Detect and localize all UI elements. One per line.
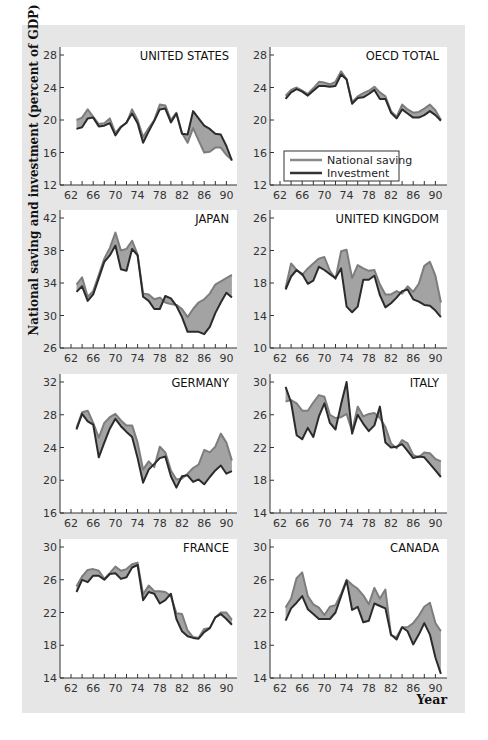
x-tick-label: 74 [340, 517, 354, 530]
x-tick-label: 82 [384, 189, 398, 202]
x-tick-label: 90 [428, 517, 442, 530]
x-tick-label: 70 [108, 682, 122, 695]
panel-title: GERMANY [171, 376, 230, 390]
panel-title: UNITED KINGDOM [336, 212, 440, 226]
panel-title: FRANCE [183, 541, 229, 555]
x-tick-label: 82 [175, 189, 189, 202]
y-tick-label: 30 [43, 541, 57, 554]
plot-area [60, 539, 237, 678]
y-tick-label: 22 [43, 607, 57, 620]
y-tick-label: 28 [43, 49, 57, 62]
y-tick-label: 18 [253, 277, 267, 290]
y-tick-label: 34 [43, 277, 57, 290]
x-tick-label: 90 [219, 682, 233, 695]
panel-oecd-total: 12162024286266707478828690OECD TOTALNati… [253, 47, 447, 202]
y-tick-label: 24 [253, 82, 267, 95]
y-tick-label: 18 [43, 639, 57, 652]
x-tick-label: 74 [131, 517, 145, 530]
x-tick-label: 74 [340, 189, 354, 202]
x-tick-label: 66 [295, 517, 309, 530]
x-tick-label: 90 [428, 189, 442, 202]
y-axis-title: National saving and investment (percent … [27, 4, 41, 336]
y-tick-label: 30 [43, 310, 57, 323]
x-tick-label: 74 [340, 352, 354, 365]
panel-united-kingdom: 10141822266266707478828690UNITED KINGDOM [253, 210, 447, 365]
panel-united-states: 12162024286266707478828690UNITED STATES [43, 47, 237, 202]
x-tick-label: 74 [340, 682, 354, 695]
plot-area [270, 374, 447, 513]
panel-title: UNITED STATES [140, 49, 229, 63]
x-tick-label: 62 [273, 682, 287, 695]
x-tick-label: 62 [273, 517, 287, 530]
panel-title: ITALY [410, 376, 440, 390]
x-tick-label: 82 [384, 352, 398, 365]
panel-italy: 14182226306266707478828690ITALY [253, 374, 447, 530]
chart-canvas: 12162024286266707478828690UNITED STATES1… [0, 0, 488, 740]
x-tick-label: 78 [153, 682, 167, 695]
x-tick-label: 66 [86, 189, 100, 202]
x-tick-label: 78 [362, 682, 376, 695]
x-tick-label: 82 [175, 352, 189, 365]
y-tick-label: 12 [253, 179, 267, 192]
x-tick-label: 62 [64, 517, 78, 530]
x-tick-label: 62 [64, 682, 78, 695]
x-tick-label: 90 [428, 352, 442, 365]
panel-title: OECD TOTAL [366, 49, 440, 63]
x-tick-label: 82 [384, 682, 398, 695]
x-axis-title: Year [416, 692, 448, 707]
x-tick-label: 86 [197, 189, 211, 202]
y-tick-label: 26 [253, 212, 267, 225]
x-tick-label: 70 [317, 682, 331, 695]
legend-label: Investment [327, 167, 390, 180]
x-tick-label: 82 [384, 517, 398, 530]
y-tick-label: 24 [43, 442, 57, 455]
x-tick-label: 86 [406, 517, 420, 530]
y-tick-label: 22 [253, 442, 267, 455]
x-tick-label: 74 [131, 682, 145, 695]
x-tick-label: 70 [108, 352, 122, 365]
x-tick-label: 62 [273, 352, 287, 365]
y-tick-label: 26 [253, 409, 267, 422]
x-tick-label: 70 [108, 189, 122, 202]
x-tick-label: 90 [219, 352, 233, 365]
x-tick-label: 70 [317, 517, 331, 530]
legend-label: National saving [327, 154, 412, 167]
x-tick-label: 86 [197, 682, 211, 695]
x-tick-label: 78 [153, 517, 167, 530]
y-tick-label: 42 [43, 212, 57, 225]
x-tick-label: 66 [86, 682, 100, 695]
x-tick-label: 86 [197, 517, 211, 530]
x-tick-label: 70 [317, 189, 331, 202]
y-tick-label: 32 [43, 376, 57, 389]
x-tick-label: 74 [131, 352, 145, 365]
y-tick-label: 14 [253, 672, 267, 685]
x-tick-label: 66 [295, 682, 309, 695]
panel-germany: 16202428326266707478828690GERMANY [43, 374, 237, 530]
plot-area [60, 374, 237, 513]
panel-canada: 14182226306266707478828690CANADA [253, 539, 447, 695]
y-tick-label: 26 [43, 342, 57, 355]
x-tick-label: 66 [86, 517, 100, 530]
y-tick-label: 18 [253, 639, 267, 652]
y-tick-label: 22 [253, 245, 267, 258]
y-tick-label: 14 [43, 672, 57, 685]
x-tick-label: 66 [295, 189, 309, 202]
y-tick-label: 30 [253, 541, 267, 554]
x-tick-label: 78 [362, 189, 376, 202]
y-tick-label: 38 [43, 245, 57, 258]
panel-title: CANADA [390, 541, 439, 555]
y-tick-label: 18 [253, 474, 267, 487]
x-tick-label: 90 [219, 517, 233, 530]
y-tick-label: 12 [43, 179, 57, 192]
panel-title: JAPAN [194, 212, 229, 226]
x-tick-label: 86 [197, 352, 211, 365]
y-tick-label: 28 [253, 49, 267, 62]
y-tick-label: 10 [253, 342, 267, 355]
y-tick-label: 20 [43, 474, 57, 487]
x-tick-label: 62 [64, 189, 78, 202]
x-tick-label: 66 [86, 352, 100, 365]
y-tick-label: 28 [43, 409, 57, 422]
y-tick-label: 24 [43, 82, 57, 95]
x-tick-label: 70 [108, 517, 122, 530]
x-tick-label: 78 [153, 352, 167, 365]
